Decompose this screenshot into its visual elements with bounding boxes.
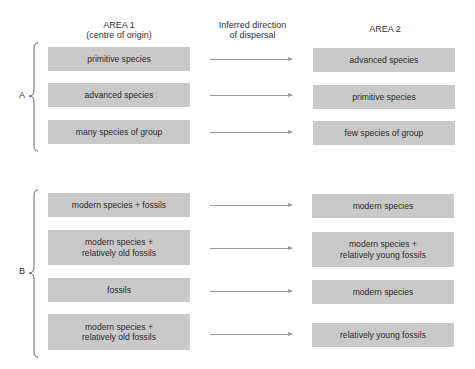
area1-box-b2: modern species + relatively old fossils (48, 230, 190, 265)
area2-header: AREA 2 (330, 24, 440, 34)
area1-box-b4: modern species + relatively old fossils (48, 314, 190, 350)
area2-box-a3: few species of group (313, 121, 455, 145)
area1-box-b2-line1: modern species + (85, 237, 153, 248)
area2-box-b2-line1: modern species + (349, 239, 417, 250)
direction-line2: of dispersal (200, 30, 305, 40)
area1-box-b3: fossils (48, 278, 190, 302)
area2-box-a2: primitive species (313, 85, 455, 109)
area2-box-b1: modern species (312, 194, 454, 218)
dispersal-arrow-a2 (210, 95, 292, 96)
dispersal-arrow-a3 (210, 132, 292, 133)
direction-header: Inferred direction of dispersal (200, 20, 305, 40)
area2-box-b3: modern species (312, 280, 454, 304)
direction-line1: Inferred direction (200, 20, 305, 30)
area1-box-b1: modern species + fossils (48, 193, 190, 217)
area2-box-a1: advanced species (313, 48, 455, 72)
dispersal-arrow-b1 (210, 205, 292, 206)
area2-box-b4: relatively young fossils (312, 323, 454, 347)
area1-header: AREA 1 (centre of origin) (60, 20, 178, 40)
area2-box-b2-line2: relatively young fossils (340, 250, 426, 261)
area2-title: AREA 2 (330, 24, 440, 34)
area1-subtitle: (centre of origin) (60, 30, 178, 40)
area1-box-b4-line1: modern species + (85, 322, 153, 333)
area2-box-b2: modern species + relatively young fossil… (312, 232, 454, 267)
group-b-brace-icon (26, 189, 40, 359)
area1-title: AREA 1 (60, 20, 178, 30)
area1-box-a3: many species of group (48, 120, 190, 144)
area1-box-a2: advanced species (48, 83, 190, 107)
dispersal-arrow-b3 (210, 291, 292, 292)
area1-box-b4-line2: relatively old fossils (82, 332, 156, 343)
dispersal-arrow-b4 (210, 334, 292, 335)
group-b-label: B (19, 266, 25, 276)
dispersal-arrow-b2 (210, 248, 292, 249)
group-a-label: A (19, 90, 25, 100)
area1-box-b2-line2: relatively old fossils (82, 248, 156, 259)
group-a-brace-icon (26, 42, 40, 152)
area1-box-a1: primitive species (48, 47, 190, 71)
dispersal-arrow-a1 (210, 59, 292, 60)
